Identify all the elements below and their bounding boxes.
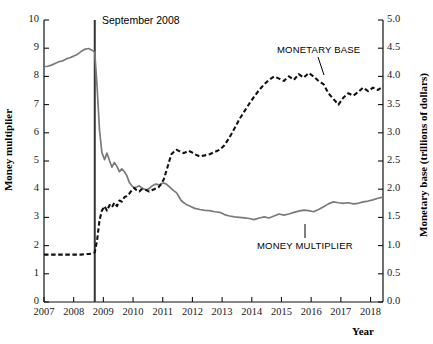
leader-line-monetary-base bbox=[318, 57, 324, 75]
money-multiplier-monetary-base-chart: Money multiplier Monetary base (trillion… bbox=[0, 0, 433, 344]
y-tick-label-right: 0.5 bbox=[387, 267, 413, 278]
y-tick-label-left: 0 bbox=[17, 295, 39, 306]
y-tick-label-right: 4.0 bbox=[387, 69, 413, 80]
y-tick-label-right: 1.5 bbox=[387, 210, 413, 221]
plot-area bbox=[0, 0, 433, 344]
y-tick-label-left: 4 bbox=[17, 182, 39, 193]
y-tick-label-left: 10 bbox=[17, 13, 39, 24]
y-tick-label-right: 4.5 bbox=[387, 41, 413, 52]
y-tick-label-left: 2 bbox=[17, 239, 39, 250]
y-tick-label-left: 5 bbox=[17, 154, 39, 165]
y-tick-label-right: 3.0 bbox=[387, 126, 413, 137]
x-tick-label: 2018 bbox=[354, 306, 388, 317]
y-tick-label-left: 1 bbox=[17, 267, 39, 278]
y-tick-label-left: 8 bbox=[17, 69, 39, 80]
y-tick-label-right: 1.0 bbox=[387, 239, 413, 250]
y-tick-label-left: 3 bbox=[17, 210, 39, 221]
y-tick-label-right: 2.5 bbox=[387, 154, 413, 165]
y-tick-label-left: 7 bbox=[17, 98, 39, 109]
y-tick-label-right: 5.0 bbox=[387, 13, 413, 24]
y-tick-label-right: 3.5 bbox=[387, 98, 413, 109]
y-tick-label-left: 6 bbox=[17, 126, 39, 137]
y-tick-label-right: 2.0 bbox=[387, 182, 413, 193]
y-tick-label-left: 9 bbox=[17, 41, 39, 52]
y-tick-label-right: 0.0 bbox=[387, 295, 413, 306]
